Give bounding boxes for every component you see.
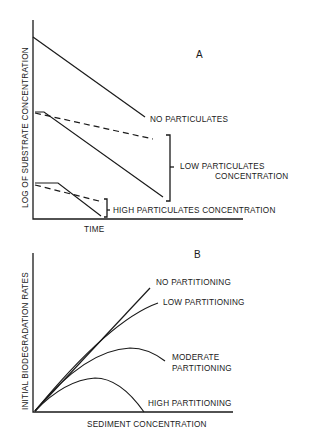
panel-b-ylabel: INITIAL BIODEGRADATION RATES — [21, 272, 30, 410]
panel-b-xlabel: SEDIMENT CONCENTRATION — [87, 420, 207, 429]
line-no-partitioning — [35, 288, 150, 411]
label-no-particulates: NO PARTICULATES — [150, 115, 228, 124]
panel-b: B INITIAL BIODEGRADATION RATES SEDIMENT … — [21, 249, 245, 429]
figure: A LOG OF SUBSTRATE CONCENTRATION TIME NO… — [0, 0, 310, 447]
line-high-partitioning — [35, 378, 144, 412]
label-low-particulates-2: CONCENTRATION — [215, 172, 288, 181]
line-moderate-partitioning — [35, 348, 165, 411]
line-no-particulates — [33, 37, 145, 117]
panel-b-label: B — [194, 249, 201, 260]
label-moderate-partitioning-1: MODERATE — [172, 353, 220, 362]
line-high-particulates-dashed — [35, 185, 103, 202]
bracket-high-particulates — [104, 199, 107, 217]
line-low-particulates-solid — [35, 112, 163, 197]
panel-a: A LOG OF SUBSTRATE CONCENTRATION TIME NO… — [21, 20, 288, 234]
label-high-partitioning: HIGH PARTITIONING — [148, 399, 232, 408]
panel-a-ylabel: LOG OF SUBSTRATE CONCENTRATION — [21, 47, 30, 208]
bracket-low-particulates — [166, 135, 170, 201]
label-low-particulates-1: LOW PARTICULATES — [180, 162, 265, 171]
panel-a-label: A — [196, 49, 203, 60]
line-low-particulates-dashed — [35, 113, 153, 139]
label-no-partitioning: NO PARTITIONING — [156, 278, 231, 287]
label-high-particulates: HIGH PARTICULATES CONCENTRATION — [113, 206, 276, 215]
label-low-partitioning: LOW PARTITIONING — [163, 298, 245, 307]
panel-a-xlabel: TIME — [84, 225, 105, 234]
label-moderate-partitioning-2: PARTITIONING — [172, 364, 232, 373]
